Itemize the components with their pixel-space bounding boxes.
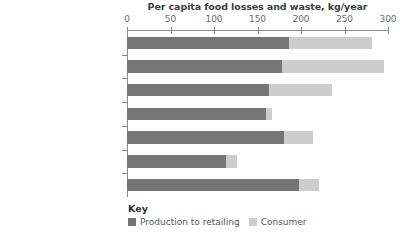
bar-row: Europe — [127, 31, 388, 55]
bar-row: Industrialised Asia — [127, 78, 388, 102]
legend-title: Key — [128, 203, 368, 214]
x-axis-tick-labels: 050100150200250300 — [127, 14, 388, 25]
bar-segment-consumer — [299, 179, 319, 192]
plot-area: EuropeNorth America and OceaniaIndustria… — [127, 31, 388, 197]
bar-row: North America and Oceania — [127, 55, 388, 79]
legend-swatch-icon — [128, 218, 136, 226]
x-tick-label: 150 — [249, 14, 266, 24]
x-tick-label: 0 — [124, 14, 130, 24]
bar-row: Sub-Saharan Africa — [127, 102, 388, 126]
bar-segment-consumer — [226, 155, 236, 168]
bar-row: South and Southeast Asia — [127, 150, 388, 174]
stacked-bar — [127, 37, 372, 50]
chart-title: Per capita food losses and waste, kg/yea… — [115, 1, 400, 12]
bar-segment-production — [127, 37, 289, 50]
bar-segment-production — [127, 60, 282, 73]
x-tick-label: 300 — [379, 14, 396, 24]
bar-segment-production — [127, 108, 266, 121]
legend-label: Production to retailing — [140, 217, 240, 227]
bar-segment-production — [127, 84, 269, 97]
x-tick-label: 50 — [165, 14, 176, 24]
legend-item[interactable]: Consumer — [249, 217, 307, 227]
legend-item[interactable]: Production to retailing — [128, 217, 240, 227]
stacked-bar — [127, 108, 272, 121]
bar-row: North Africa, West and Central Asia — [127, 126, 388, 150]
bar-segment-consumer — [289, 37, 373, 50]
bar-segment-consumer — [266, 108, 272, 121]
stacked-bar — [127, 179, 319, 192]
stacked-bar — [127, 84, 332, 97]
legend: Key Production to retailingConsumer — [128, 203, 368, 227]
legend-label: Consumer — [261, 217, 307, 227]
stacked-bar — [127, 60, 384, 73]
bar-chart: Per capita food losses and waste, kg/yea… — [0, 0, 400, 240]
stacked-bar — [127, 155, 237, 168]
bar-segment-production — [127, 179, 299, 192]
bar-segment-consumer — [282, 60, 384, 73]
x-tick-mark — [388, 27, 389, 34]
bar-row: Latin America — [127, 173, 388, 197]
bar-segment-production — [127, 131, 284, 144]
bar-segment-consumer — [269, 84, 333, 97]
bar-segment-consumer — [284, 131, 313, 144]
stacked-bar — [127, 131, 313, 144]
x-tick-label: 250 — [336, 14, 353, 24]
bar-segment-production — [127, 155, 226, 168]
legend-items: Production to retailingConsumer — [128, 217, 368, 227]
legend-swatch-icon — [249, 218, 257, 226]
x-tick-label: 100 — [205, 14, 222, 24]
x-tick-label: 200 — [292, 14, 309, 24]
